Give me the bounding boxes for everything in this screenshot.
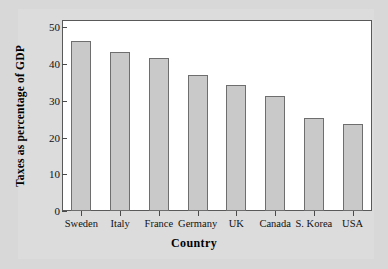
x-axis-tick-label: Canada [259,218,291,229]
x-axis-tick-label: USA [342,218,363,229]
y-axis-tick-mark [62,64,67,65]
bar[interactable] [226,85,246,211]
y-axis-tick-mark [62,27,67,28]
y-axis-tick-mark [62,138,67,139]
bar[interactable] [343,124,363,211]
x-axis-tick-mark [236,211,237,216]
x-axis-tick-mark [159,211,160,216]
y-axis-tick-label: 50 [34,22,60,33]
x-axis-tick-label: Italy [111,218,130,229]
x-axis-tick-mark [198,211,199,216]
bar[interactable] [188,75,208,211]
x-axis-tick-label: Sweden [65,218,98,229]
y-axis-tick-mark [62,211,67,212]
bars-layer [62,20,372,211]
x-axis-tick-mark [353,211,354,216]
chart-figure: 01020304050 Taxes as percentage of GDP C… [0,0,388,269]
x-axis-tick-mark [120,211,121,216]
y-axis-tick-label: 30 [34,95,60,106]
bar[interactable] [149,58,169,211]
bar[interactable] [304,118,324,211]
y-axis-tick-mark [62,174,67,175]
x-axis-tick-label: UK [229,218,244,229]
bar[interactable] [71,41,91,211]
x-axis-title: Country [0,236,388,251]
bar[interactable] [110,52,130,211]
y-axis-tick-label: 40 [34,59,60,70]
bar[interactable] [265,96,285,211]
y-axis-tick-mark [62,101,67,102]
x-axis-tick-label: Germany [178,218,217,229]
x-axis-tick-mark [314,211,315,216]
x-axis-tick-mark [275,211,276,216]
y-axis-title: Taxes as percentage of GDP [14,16,26,216]
y-axis-tick-label: 20 [34,132,60,143]
x-axis-tick-mark [81,211,82,216]
x-axis-tick-label: France [145,218,174,229]
y-axis-tick-labels: 01020304050 [28,0,60,269]
y-axis-tick-label: 0 [34,206,60,217]
y-axis-tick-label: 10 [34,169,60,180]
x-axis-tick-label: S. Korea [296,218,333,229]
